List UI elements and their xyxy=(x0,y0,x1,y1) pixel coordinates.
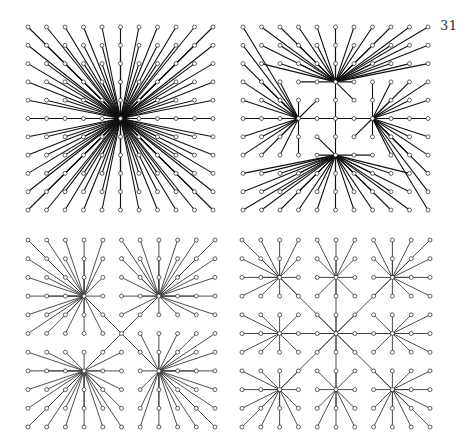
node xyxy=(353,369,357,373)
node xyxy=(193,171,197,175)
node xyxy=(82,25,86,29)
node xyxy=(26,275,30,279)
edge xyxy=(392,371,430,390)
node xyxy=(63,25,67,29)
node xyxy=(100,98,104,102)
node xyxy=(45,98,49,102)
node xyxy=(278,208,282,212)
node xyxy=(297,153,301,157)
node xyxy=(211,98,215,102)
node xyxy=(63,208,67,212)
node xyxy=(100,43,104,47)
node xyxy=(120,425,124,429)
node xyxy=(101,388,105,392)
node xyxy=(408,190,412,194)
node xyxy=(334,350,338,354)
node xyxy=(119,135,123,139)
node xyxy=(352,80,356,84)
node xyxy=(211,208,215,212)
node xyxy=(315,135,319,139)
edge xyxy=(243,45,299,118)
node xyxy=(296,257,300,261)
node xyxy=(174,117,178,121)
node xyxy=(260,62,264,66)
node xyxy=(176,388,180,392)
node xyxy=(26,332,30,336)
node xyxy=(82,257,86,261)
edge xyxy=(336,240,355,277)
edge xyxy=(47,240,84,296)
edge xyxy=(140,334,159,371)
node xyxy=(371,98,375,102)
edge xyxy=(261,259,280,278)
node xyxy=(334,238,338,242)
node xyxy=(409,369,413,373)
edge xyxy=(121,119,214,211)
node xyxy=(193,98,197,102)
node xyxy=(297,208,301,212)
node xyxy=(334,294,338,298)
node xyxy=(138,294,142,298)
node xyxy=(213,406,217,410)
node xyxy=(137,98,141,102)
edge xyxy=(280,390,299,427)
node xyxy=(26,369,30,373)
node xyxy=(296,388,300,392)
node xyxy=(240,294,244,298)
node xyxy=(353,238,357,242)
node xyxy=(174,171,178,175)
node xyxy=(334,171,338,175)
node xyxy=(120,406,124,410)
node xyxy=(63,369,67,373)
node xyxy=(119,171,123,175)
edge xyxy=(392,390,411,427)
node xyxy=(315,98,319,102)
node xyxy=(352,208,356,212)
node xyxy=(260,135,264,139)
node xyxy=(278,153,282,157)
node xyxy=(353,257,357,261)
node xyxy=(101,294,105,298)
node xyxy=(296,238,300,242)
node xyxy=(26,153,30,157)
node xyxy=(260,25,264,29)
node xyxy=(137,117,141,121)
node xyxy=(137,153,141,157)
node xyxy=(389,62,393,66)
node xyxy=(194,425,198,429)
node xyxy=(389,117,393,121)
node xyxy=(278,313,282,317)
node xyxy=(156,171,160,175)
node xyxy=(137,25,141,29)
node xyxy=(45,313,49,317)
node xyxy=(82,425,86,429)
edge xyxy=(392,334,411,353)
edge xyxy=(317,371,336,390)
node xyxy=(157,238,161,242)
edge xyxy=(84,259,103,296)
panel-bottom-right-nine-hub-network xyxy=(240,238,432,429)
node xyxy=(278,275,282,279)
node xyxy=(174,98,178,102)
node xyxy=(408,25,412,29)
node xyxy=(120,332,124,336)
node xyxy=(353,350,357,354)
node xyxy=(156,25,160,29)
node xyxy=(194,275,198,279)
node xyxy=(241,190,245,194)
node xyxy=(334,43,338,47)
node xyxy=(315,171,319,175)
node xyxy=(137,80,141,84)
edge xyxy=(336,390,355,409)
node xyxy=(315,238,319,242)
node xyxy=(26,208,30,212)
node xyxy=(372,313,376,317)
node xyxy=(428,294,432,298)
node xyxy=(137,62,141,66)
edge xyxy=(47,352,84,371)
node xyxy=(278,117,282,121)
node xyxy=(240,369,244,373)
node xyxy=(297,98,301,102)
node xyxy=(352,153,356,157)
node xyxy=(101,425,105,429)
